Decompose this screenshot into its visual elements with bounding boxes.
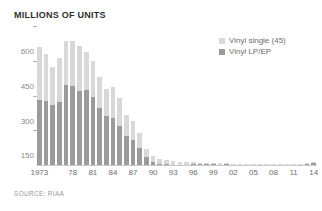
x-axis-tick-label: 81 [88, 168, 97, 177]
bar-segment-vinyl-single [157, 159, 162, 164]
bar-segment-vinyl-single [97, 77, 102, 109]
bar-segment-vinyl-single [151, 156, 156, 162]
y-axis-tick-label: 150 [0, 151, 34, 160]
bar-segment-vinyl-single [91, 61, 96, 97]
bar-segment-vinyl-single [70, 41, 75, 86]
bar-segment-vinyl-lp-ep [131, 140, 136, 165]
bar-segment-vinyl-lp-ep [111, 118, 116, 165]
bar-segment-vinyl-lp-ep [50, 105, 55, 165]
x-axis-tick-label: 1973 [30, 168, 48, 177]
bar-segment-vinyl-single [50, 67, 55, 105]
bar-segment-vinyl-single [77, 46, 82, 91]
bar-segment-vinyl-lp-ep [70, 86, 75, 165]
bar-segment-vinyl-lp-ep [44, 101, 49, 165]
x-axis-tick-label: 11 [289, 168, 297, 177]
legend-item-vinyl-single: Vinyl single (45) [219, 36, 286, 45]
bar-segment-vinyl-single [144, 149, 149, 157]
bar-segment-vinyl-lp-ep [124, 136, 129, 165]
x-axis-tick-label: 93 [169, 168, 178, 177]
bar-segment-vinyl-single [84, 52, 89, 90]
legend-swatch-vinyl-lp-ep [219, 49, 225, 55]
bar-segment-vinyl-lp-ep [137, 148, 142, 165]
y-axis-tick-label: 600 [0, 47, 34, 56]
x-axis-tick-label: 84 [108, 168, 117, 177]
bar-segment-vinyl-single [44, 54, 49, 101]
legend-label-vinyl-lp-ep: Vinyl LP/EP [229, 47, 271, 56]
bar-segment-vinyl-single [117, 98, 122, 126]
x-axis-tick-label: 78 [68, 168, 77, 177]
bar-segment-vinyl-single [131, 121, 136, 140]
bar-segment-vinyl-lp-ep [64, 85, 69, 165]
bar-segment-vinyl-lp-ep [144, 157, 149, 165]
x-axis-tick-label: 90 [149, 168, 158, 177]
bar-segment-vinyl-single [57, 58, 62, 102]
x-axis-tick-label: 05 [249, 168, 258, 177]
bar-segment-vinyl-lp-ep [57, 102, 62, 165]
bar-segment-vinyl-lp-ep [97, 108, 102, 165]
x-axis-tick-label: 08 [269, 168, 278, 177]
x-axis-tick-label: 96 [189, 168, 198, 177]
chart-legend: Vinyl single (45) Vinyl LP/EP [219, 36, 286, 58]
bar-segment-vinyl-lp-ep [117, 126, 122, 165]
x-axis-tick-label: 87 [129, 168, 138, 177]
bar-segment-vinyl-single [111, 87, 116, 118]
bar-segment-vinyl-single [64, 41, 69, 85]
bar-segment-vinyl-lp-ep [37, 100, 42, 165]
legend-label-vinyl-single: Vinyl single (45) [229, 36, 286, 45]
bar-segment-vinyl-single [137, 133, 142, 148]
chart-title: MILLIONS OF UNITS [14, 10, 106, 20]
bar-segment-vinyl-single [37, 47, 42, 100]
bar-segment-vinyl-single [104, 89, 109, 117]
bar-segment-vinyl-single [191, 162, 196, 164]
legend-item-vinyl-lp-ep: Vinyl LP/EP [219, 47, 286, 56]
source-note: SOURCE: RIAA [14, 190, 64, 197]
bar-segment-vinyl-lp-ep [77, 91, 82, 165]
bar-segment-vinyl-single [124, 115, 129, 137]
y-axis-tick-label: 450 [0, 82, 34, 91]
y-axis-tick-label: 300 [0, 117, 34, 126]
x-axis-baseline [36, 165, 317, 166]
x-axis-tick-label: 02 [229, 168, 238, 177]
x-axis-tick-label: 99 [209, 168, 218, 177]
bar-segment-vinyl-single [164, 160, 169, 164]
vinyl-shipments-chart: MILLIONS OF UNITS 150300450600 197378818… [0, 0, 322, 211]
bar-segment-vinyl-lp-ep [104, 116, 109, 165]
bar-segment-vinyl-lp-ep [84, 90, 89, 165]
x-axis-tick-label: 14 [309, 168, 318, 177]
legend-swatch-vinyl-single [219, 38, 225, 44]
bar-segment-vinyl-lp-ep [91, 97, 96, 165]
